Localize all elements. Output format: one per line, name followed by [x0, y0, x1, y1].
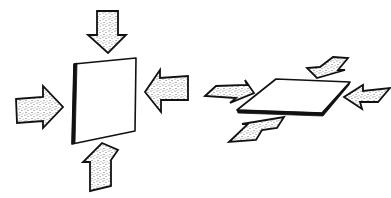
horizontal-plate-figure [205, 57, 390, 142]
arrow-left-in-icon [205, 80, 254, 103]
vertical-plate [72, 58, 136, 144]
arrow-bottom-in-icon [229, 117, 284, 142]
arrow-top-in-icon [307, 57, 348, 78]
arrow-left-right-icon [16, 86, 63, 128]
arrow-top-down-icon [88, 11, 126, 53]
arrow-bottom-up-icon [83, 143, 118, 191]
arrow-right-left-icon [145, 70, 188, 112]
arrow-right-in-icon [344, 85, 390, 109]
horizontal-plate [237, 79, 350, 113]
vertical-plate-figure [16, 11, 188, 191]
compression-diagram [0, 0, 391, 198]
